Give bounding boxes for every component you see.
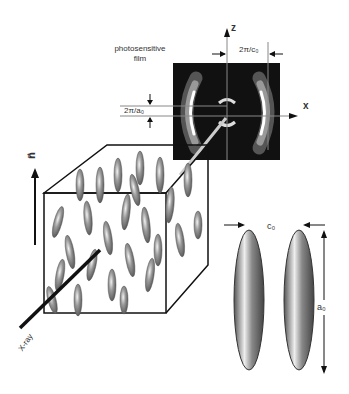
a-spacing-label: 2π/a₀ <box>124 106 144 115</box>
x-axis-arrow-icon <box>289 113 298 119</box>
molecule-detail <box>234 230 314 370</box>
film-label-line2: film <box>110 54 170 64</box>
molecule-length-label: a₀ <box>317 302 326 312</box>
director-label: n⃗ <box>26 152 37 159</box>
molecule-width-label: c₀ <box>267 221 275 231</box>
z-axis-arrow-icon <box>224 28 230 37</box>
x-ray-diffraction-diagram <box>0 0 349 394</box>
x-axis-label: x <box>303 100 309 111</box>
z-axis-label: z <box>231 22 236 33</box>
rod-molecules <box>45 151 202 316</box>
film-label: photosensitive film <box>110 44 170 64</box>
c-spacing-label: 2π/c₀ <box>239 45 259 54</box>
director-arrow-icon <box>31 168 39 178</box>
film-label-line1: photosensitive <box>110 44 170 54</box>
